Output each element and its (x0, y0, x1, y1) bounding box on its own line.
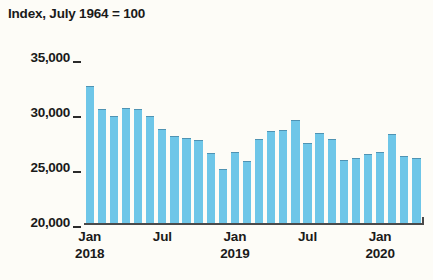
bar (364, 154, 372, 223)
x-axis-endcap (422, 217, 424, 225)
bar (400, 156, 408, 223)
y-axis-tick-label: 30,000 (31, 105, 71, 121)
x-axis: Jan2018JulJan2019JulJan2020 (84, 228, 433, 280)
bar (255, 139, 263, 223)
x-axis-tick-month-label: Jan (50, 228, 130, 245)
bar (231, 152, 239, 224)
bar (170, 136, 178, 223)
bar (182, 138, 190, 223)
bar (328, 139, 336, 223)
bar (291, 120, 299, 223)
bar (279, 130, 287, 223)
bar (219, 169, 227, 223)
bar (110, 116, 118, 223)
x-axis-tick: Jan2018 (50, 228, 130, 262)
bar (340, 160, 348, 223)
bar (98, 109, 106, 223)
bar (352, 158, 360, 223)
y-axis-tick: 25,000 (0, 160, 84, 176)
x-axis-tick: Jan2019 (195, 228, 275, 262)
bar (303, 143, 311, 223)
bar (267, 131, 275, 223)
x-axis-tick-month-label: Jan (195, 228, 275, 245)
y-axis-tick-mark (73, 61, 81, 63)
x-axis-tick-year-label: 2018 (50, 245, 130, 262)
bar-chart: Index, July 1964 = 100 35,00030,00025,00… (0, 0, 433, 280)
x-axis-tick-month-label: Jul (268, 228, 348, 245)
y-axis-tick-label: 25,000 (31, 160, 71, 176)
bar (86, 86, 94, 223)
x-axis-tick-year-label: 2019 (195, 245, 275, 262)
bar (158, 129, 166, 223)
bar (376, 152, 384, 223)
x-axis-tick: Jan2020 (340, 228, 420, 262)
x-axis-tick-month-label: Jul (122, 228, 202, 245)
x-axis-tick-year-label: 2020 (340, 245, 420, 262)
bar (315, 133, 323, 223)
bar (412, 158, 420, 223)
bar (146, 116, 154, 223)
x-axis-tick: Jul (268, 228, 348, 245)
bar (194, 140, 202, 223)
bar (388, 134, 396, 223)
x-axis-tick-month-label: Jan (340, 228, 420, 245)
y-axis-tick-mark (73, 171, 81, 173)
bar (207, 153, 215, 223)
x-axis-baseline (84, 223, 424, 225)
bar (243, 161, 251, 223)
bar (134, 109, 142, 223)
y-axis-tick: 30,000 (0, 105, 84, 121)
y-axis-tick-mark (73, 116, 81, 118)
bar (122, 108, 130, 223)
x-axis-tick: Jul (122, 228, 202, 245)
y-axis-tick: 35,000 (0, 50, 84, 66)
y-axis-tick-label: 35,000 (31, 50, 71, 66)
